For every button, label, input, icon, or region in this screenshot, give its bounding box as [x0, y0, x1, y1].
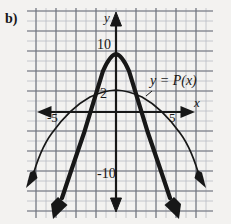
curve-equation-label: y = P(x)	[150, 74, 197, 88]
y-axis-label: y	[104, 11, 110, 24]
graph-canvas	[0, 0, 231, 224]
y-tick-label-neg10: -10	[97, 167, 116, 181]
y-tick-label-10: 10	[97, 38, 111, 52]
part-label: b)	[5, 12, 17, 26]
x-axis-label: x	[194, 96, 200, 109]
x-tick-label-5: 5	[169, 111, 176, 124]
y-tick-label-2: 2	[100, 87, 107, 101]
figure-panel: b) y x 10 2 -10 -5 5 y = P(x)	[0, 0, 231, 224]
x-tick-label-neg5: -5	[47, 111, 58, 124]
